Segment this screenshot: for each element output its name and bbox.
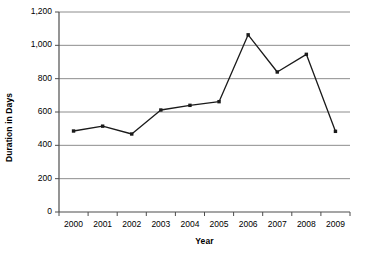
- data-line: [74, 35, 336, 134]
- data-point: [276, 70, 279, 73]
- data-point: [159, 108, 162, 111]
- data-point: [334, 130, 337, 133]
- data-point: [101, 124, 104, 127]
- data-point: [72, 129, 75, 132]
- data-markers: [72, 33, 337, 136]
- data-point: [188, 104, 191, 107]
- data-point: [246, 33, 249, 36]
- plot-area: [0, 0, 372, 255]
- axis-ticks: [55, 12, 350, 216]
- line-chart: Duration in Days Year 02004006008001,000…: [0, 0, 372, 255]
- gridlines: [59, 12, 350, 179]
- data-point: [130, 132, 133, 135]
- data-point: [305, 53, 308, 56]
- data-point: [217, 100, 220, 103]
